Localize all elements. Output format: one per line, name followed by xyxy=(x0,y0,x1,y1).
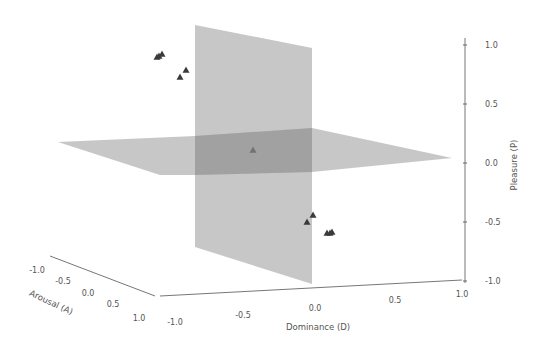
y-tick-label: 0.5 xyxy=(107,300,120,309)
y-tick-label: -1.0 xyxy=(29,266,45,275)
x-tick-label: -0.5 xyxy=(235,311,251,320)
y-tick-label: 1.0 xyxy=(133,314,146,323)
z-axis-label-pleasure: Pleasure (P) xyxy=(509,140,519,191)
x-tick-label: 1.0 xyxy=(456,290,469,299)
z-tick-label: 0.5 xyxy=(485,100,498,109)
data-point-triangle-marker xyxy=(183,67,190,73)
y-axis-arousal-line xyxy=(50,256,155,296)
chart-figure: 1.00.50.0-0.5-1.0-1.0-0.50.00.51.0-1.0-0… xyxy=(0,0,553,354)
z-tick-label: -1.0 xyxy=(485,277,501,286)
x-tick-label: 0.5 xyxy=(389,296,402,305)
data-point-triangle-marker xyxy=(177,74,184,80)
y-axis-label-arousal: Arousal (A) xyxy=(28,288,75,317)
y-tick-label: -0.5 xyxy=(55,277,71,286)
z-tick-label: 1.0 xyxy=(485,41,498,50)
pad-3d-scatter-plot: 1.00.50.0-0.5-1.0-1.0-0.50.00.51.0-1.0-0… xyxy=(0,0,553,354)
x-axis-label-dominance: Dominance (D) xyxy=(286,322,350,332)
x-tick-label: 0.0 xyxy=(309,304,322,313)
z-tick-label: 0.0 xyxy=(485,159,498,168)
y-tick-label: 0.0 xyxy=(82,289,95,298)
planes-group xyxy=(58,25,452,284)
z-tick-label: -0.5 xyxy=(485,218,501,227)
x-tick-label: -1.0 xyxy=(167,318,183,327)
